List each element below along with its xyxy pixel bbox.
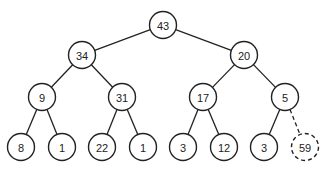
node-label: 31 — [116, 92, 128, 104]
tree-nodes: 43342093117581221312359 — [8, 12, 319, 161]
node-label: 1 — [140, 142, 146, 154]
node-label: 43 — [157, 20, 169, 32]
edge-31-to-22 — [107, 110, 117, 135]
tree-node: 9 — [29, 84, 56, 111]
tree-edges — [26, 30, 300, 135]
tree-node: 20 — [231, 42, 258, 69]
edge-17-to-3 — [188, 110, 198, 135]
tree-node: 3 — [251, 134, 278, 161]
node-label: 1 — [59, 142, 65, 154]
edge-34-to-31 — [91, 65, 112, 87]
tree-node: 8 — [8, 134, 35, 161]
heap-tree-diagram: 43342093117581221312359 — [0, 0, 325, 170]
tree-node: 59 — [292, 134, 319, 161]
tree-node: 31 — [109, 84, 136, 111]
node-label: 3 — [180, 142, 186, 154]
node-label: 59 — [299, 142, 311, 154]
tree-node: 17 — [190, 84, 217, 111]
edge-20-to-17 — [212, 65, 234, 88]
tree-node: 3 — [170, 134, 197, 161]
edge-31-to-1 — [127, 109, 138, 134]
tree-node: 5 — [272, 84, 299, 111]
edge-17-to-12 — [208, 109, 219, 134]
node-label: 3 — [261, 142, 267, 154]
edge-9-to-8 — [26, 109, 37, 134]
tree-node: 34 — [69, 42, 96, 69]
tree-node: 22 — [89, 134, 116, 161]
tree-node: 1 — [49, 134, 76, 161]
edge-43-to-20 — [176, 30, 232, 51]
tree-node: 1 — [130, 134, 157, 161]
node-label: 20 — [238, 50, 250, 62]
node-label: 34 — [76, 50, 88, 62]
edge-9-to-1 — [47, 110, 57, 135]
edge-5-to-59 — [290, 110, 300, 135]
node-label: 5 — [282, 92, 288, 104]
edge-43-to-34 — [95, 30, 151, 51]
tree-node: 12 — [211, 134, 238, 161]
node-label: 8 — [18, 142, 24, 154]
node-label: 9 — [39, 92, 45, 104]
edge-5-to-3 — [269, 109, 280, 134]
edge-34-to-9 — [51, 65, 72, 87]
tree-node: 43 — [150, 12, 177, 39]
node-label: 12 — [218, 142, 230, 154]
edge-20-to-5 — [253, 65, 275, 88]
node-label: 17 — [197, 92, 209, 104]
node-label: 22 — [96, 142, 108, 154]
